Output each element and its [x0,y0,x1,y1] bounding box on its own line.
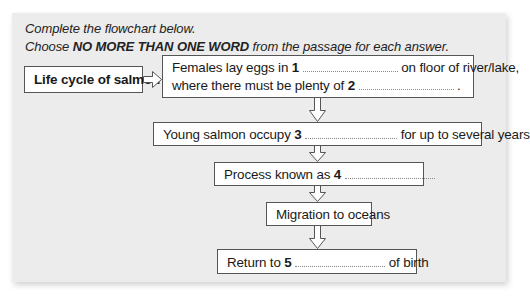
right-arrow-icon [143,70,163,90]
step-2-text: Young salmon occupy 3 for up to several … [163,127,530,142]
flowchart-step-4: Migration to oceans [266,202,372,226]
answer-blank-5[interactable] [295,255,385,267]
instruction-emphasis: NO MORE THAN ONE WORD [73,39,249,54]
instruction-suffix: from the passage for each answer. [249,39,449,54]
step-text: . [457,78,461,93]
flowchart-step-5: Return to 5 of birth [217,249,417,274]
answer-blank-3[interactable] [305,127,397,139]
question-number-5: 5 [284,255,291,270]
step-text: for up to several years [401,127,530,142]
flowchart-title-box: Life cycle of salmon [24,66,143,93]
answer-blank-2[interactable] [359,78,454,90]
step-text: Return to [227,255,284,270]
step-text: Process known as [224,167,334,182]
step-text: of birth [389,255,429,270]
instruction-line-1: Complete the flowchart below. [25,21,196,36]
answer-blank-1[interactable] [303,60,398,72]
question-number-1: 1 [292,60,299,75]
step-text: Females lay eggs in [172,60,292,75]
instruction-line-2: Choose NO MORE THAN ONE WORD from the pa… [25,39,449,54]
question-number-3: 3 [294,127,301,142]
instruction-prefix: Choose [25,39,73,54]
answer-blank-4[interactable] [345,167,435,179]
down-arrow-icon [308,98,328,123]
flowchart-title: Life cycle of salmon [34,72,160,87]
down-arrow-icon [308,186,328,203]
flowchart-step-2: Young salmon occupy 3 for up to several … [153,122,482,146]
question-number-2: 2 [348,78,355,93]
instruction-text: Complete the flowchart below. [25,21,196,36]
step-text: where there must be plenty of [172,78,348,93]
down-arrow-icon [308,146,328,163]
step-5-text: Return to 5 of birth [227,255,429,270]
step-4-text: Migration to oceans [276,207,390,222]
step-1-line-2: where there must be plenty of 2 . [172,78,461,93]
step-3-text: Process known as 4 [224,167,435,182]
question-number-4: 4 [334,167,341,182]
flowchart-step-3: Process known as 4 [214,162,424,186]
step-1-line-1: Females lay eggs in 1 on floor of river/… [172,60,519,75]
flowchart-step-1: Females lay eggs in 1 on floor of river/… [162,55,474,98]
down-arrow-icon [308,226,328,250]
step-text: on floor of river/lake, [401,60,519,75]
step-text: Young salmon occupy [163,127,294,142]
